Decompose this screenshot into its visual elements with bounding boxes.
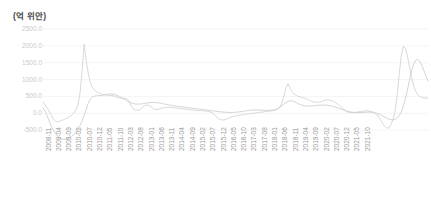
x-tick-label: 2009-04 bbox=[56, 127, 63, 151]
x-tick-label: 2018-06 bbox=[282, 127, 289, 151]
x-tick-label: 2010-12 bbox=[97, 127, 104, 151]
x-tick-label: 2010-07 bbox=[87, 127, 94, 151]
x-tick-label: 2016-05 bbox=[231, 127, 238, 151]
x-tick-label: 2018-01 bbox=[272, 127, 279, 151]
x-tick-label: 2014-09 bbox=[190, 127, 197, 151]
x-tick-label: 2013-06 bbox=[159, 127, 166, 151]
x-tick-label: 2015-02 bbox=[200, 127, 207, 151]
x-tick-label: 2017-03 bbox=[251, 127, 258, 151]
x-tick-label: 2011-05 bbox=[107, 128, 114, 151]
x-tick-label: 2019-09 bbox=[313, 127, 320, 151]
x-tick-label: 2020-12 bbox=[344, 127, 351, 151]
x-tick-label: 2020-02 bbox=[324, 127, 331, 151]
x-tick-label: 2012-08 bbox=[138, 127, 145, 151]
x-tick-label: 2017-08 bbox=[262, 127, 269, 151]
x-tick-label: 2014-04 bbox=[179, 127, 186, 151]
chart-container: (억 위안) 2500.02000.01500.01000.0500.00.0-… bbox=[0, 0, 431, 214]
x-tick-label: 2012-03 bbox=[128, 127, 135, 151]
x-tick-label: 2011-10 bbox=[118, 128, 125, 151]
x-tick-label: 2010-02 bbox=[76, 127, 83, 151]
x-tick-label: 2021-10 bbox=[365, 127, 372, 151]
x-tick-label: 2008-11 bbox=[46, 128, 53, 151]
x-tick-label: 2016-10 bbox=[241, 127, 248, 151]
x-tick-label: 2018-11 bbox=[293, 128, 300, 151]
x-tick-label: 2015-07 bbox=[210, 127, 217, 151]
x-axis-tick-labels: 2008-112009-042009-092010-022010-072010-… bbox=[0, 0, 431, 214]
x-tick-label: 2020-07 bbox=[334, 127, 341, 151]
x-tick-label: 2013-11 bbox=[169, 128, 176, 151]
x-tick-label: 2021-05 bbox=[354, 127, 361, 151]
x-tick-label: 2009-09 bbox=[66, 127, 73, 151]
x-tick-label: 2015-12 bbox=[221, 127, 228, 151]
x-tick-label: 2019-04 bbox=[303, 127, 310, 151]
x-tick-label: 2013-01 bbox=[149, 127, 156, 151]
